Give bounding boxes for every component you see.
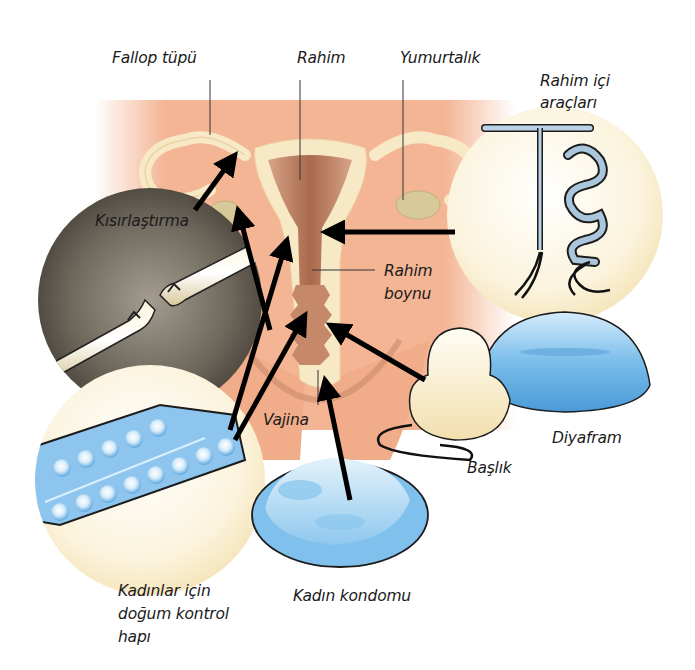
label-fallopian-tube: Fallop tüpü	[112, 48, 197, 68]
label-female-condom: Kadın kondomu	[293, 586, 411, 606]
label-diaphragm: Diyafram	[552, 428, 622, 448]
label-sterilization: Kısırlaştırma	[95, 211, 189, 231]
label-vagina: Vajina	[263, 410, 309, 430]
label-ovary: Yumurtalık	[400, 48, 480, 68]
pill-illustration	[30, 365, 265, 595]
label-iud-line1: Rahim içi	[540, 71, 610, 91]
female-condom-illustration	[252, 458, 428, 567]
contraception-diagram: Fallop tüpü Rahim Yumurtalık Rahim içi a…	[0, 0, 695, 670]
label-pill-line3: hapı	[118, 627, 151, 647]
label-pill-line2: doğum kontrol	[118, 604, 229, 624]
label-cervix-line2: boynu	[384, 284, 431, 304]
label-pill-line1: Kadınlar için	[118, 581, 211, 601]
label-uterus: Rahim	[297, 48, 346, 68]
label-cap: Başlık	[467, 458, 512, 478]
iud-illustration	[447, 107, 663, 323]
label-iud-line2: araçları	[540, 93, 597, 113]
label-cervix-line1: Rahim	[384, 261, 433, 281]
